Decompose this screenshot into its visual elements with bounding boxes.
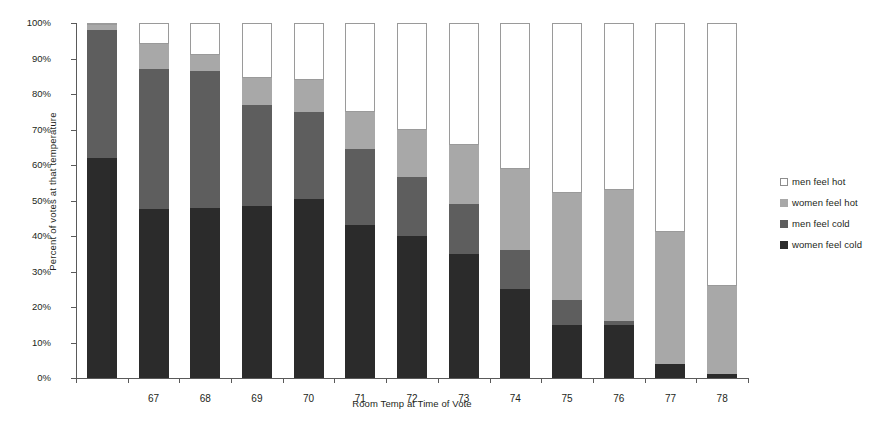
bar-segment bbox=[449, 204, 479, 254]
bar-segment bbox=[397, 236, 427, 378]
bar-segment bbox=[345, 23, 375, 112]
x-axis-tick bbox=[696, 378, 697, 383]
bar-segment bbox=[552, 325, 582, 378]
bar-stack[interactable] bbox=[242, 23, 272, 378]
bar-segment bbox=[500, 23, 530, 169]
bar-stack[interactable] bbox=[139, 23, 169, 378]
bar-segment bbox=[500, 250, 530, 289]
legend-item-label: women feel cold bbox=[792, 239, 862, 250]
x-axis-tick bbox=[593, 378, 594, 383]
bar-stack[interactable] bbox=[294, 23, 324, 378]
y-axis-tick bbox=[71, 272, 76, 273]
bar-segment bbox=[655, 364, 685, 378]
x-axis-title: Room Temp at Time of Vote bbox=[76, 398, 748, 409]
x-axis-tick bbox=[231, 378, 232, 383]
bar-segment bbox=[139, 44, 169, 69]
y-axis-tick bbox=[71, 236, 76, 237]
y-axis-tick-label: 90% bbox=[5, 53, 51, 64]
bar-segment bbox=[139, 209, 169, 378]
y-axis-tick-label: 100% bbox=[5, 17, 51, 28]
bar-segment bbox=[139, 23, 169, 44]
bar-segment bbox=[500, 169, 530, 251]
y-axis-tick-label: 20% bbox=[5, 301, 51, 312]
bar-segment bbox=[552, 23, 582, 193]
bar-segment bbox=[294, 112, 324, 199]
x-axis-tick bbox=[490, 378, 491, 383]
bar-segment bbox=[707, 374, 737, 378]
y-axis-tick-label: 40% bbox=[5, 230, 51, 241]
bar-stack[interactable] bbox=[87, 23, 117, 378]
x-axis-tick bbox=[438, 378, 439, 383]
legend-item-label: men feel cold bbox=[792, 218, 850, 229]
y-axis-tick-label: 70% bbox=[5, 124, 51, 135]
y-axis-tick bbox=[71, 59, 76, 60]
bar-segment bbox=[397, 177, 427, 236]
bar-segment bbox=[294, 80, 324, 112]
bar-segment bbox=[655, 23, 685, 232]
bar-segment bbox=[500, 289, 530, 378]
bar-segment bbox=[552, 300, 582, 325]
y-axis-tick bbox=[71, 165, 76, 166]
bar-segment bbox=[242, 105, 272, 206]
legend-swatch-icon bbox=[780, 178, 788, 186]
bar-stack[interactable] bbox=[190, 23, 220, 378]
bar-segment bbox=[242, 78, 272, 105]
bar-segment bbox=[449, 23, 479, 145]
legend-item[interactable]: men feel hot bbox=[780, 171, 888, 192]
bar-segment bbox=[190, 71, 220, 208]
legend-item-label: men feel hot bbox=[792, 176, 845, 187]
bar-segment bbox=[707, 286, 737, 375]
bar-stack[interactable] bbox=[345, 23, 375, 378]
y-axis-tick bbox=[71, 23, 76, 24]
bar-stack[interactable] bbox=[500, 23, 530, 378]
bar-segment bbox=[449, 145, 479, 204]
bar-stack[interactable] bbox=[449, 23, 479, 378]
x-axis-tick bbox=[283, 378, 284, 383]
bar-segment bbox=[87, 158, 117, 378]
bar-segment bbox=[604, 190, 634, 321]
bar-segment bbox=[87, 23, 117, 25]
bar-segment bbox=[604, 321, 634, 325]
x-axis-tick bbox=[128, 378, 129, 383]
x-axis-line bbox=[76, 378, 749, 379]
bar-segment bbox=[345, 225, 375, 378]
y-axis-tick-label: 50% bbox=[5, 195, 51, 206]
y-axis-tick-label: 0% bbox=[5, 372, 51, 383]
x-axis-tick bbox=[748, 378, 749, 383]
legend-item[interactable]: men feel cold bbox=[780, 213, 888, 234]
plot-area: 0%10%20%30%40%50%60%70%80%90%100% 676869… bbox=[76, 23, 748, 378]
bar-segment bbox=[242, 23, 272, 78]
chart-legend: men feel hotwomen feel hotmen feel coldw… bbox=[780, 171, 888, 255]
y-axis-tick bbox=[71, 130, 76, 131]
bar-segment bbox=[139, 69, 169, 209]
bar-segment bbox=[345, 112, 375, 149]
bar-stack[interactable] bbox=[397, 23, 427, 378]
legend-swatch-icon bbox=[780, 220, 788, 228]
bar-stack[interactable] bbox=[655, 23, 685, 378]
x-axis-tick bbox=[179, 378, 180, 383]
y-axis-tick bbox=[71, 343, 76, 344]
bar-segment bbox=[87, 30, 117, 158]
legend-item[interactable]: women feel hot bbox=[780, 192, 888, 213]
legend-item[interactable]: women feel cold bbox=[780, 234, 888, 255]
x-axis-tick bbox=[645, 378, 646, 383]
bar-stack[interactable] bbox=[552, 23, 582, 378]
stacked-bar-chart: Percent of votes at that temperature 0%1… bbox=[0, 0, 889, 431]
bar-segment bbox=[397, 23, 427, 130]
bar-segment bbox=[449, 254, 479, 378]
legend-swatch-icon bbox=[780, 199, 788, 207]
bar-segment bbox=[397, 130, 427, 178]
bar-stack[interactable] bbox=[707, 23, 737, 378]
bar-segment bbox=[190, 208, 220, 378]
x-axis-tick bbox=[76, 378, 77, 383]
bar-segment bbox=[242, 206, 272, 378]
bar-segment bbox=[707, 23, 737, 286]
y-axis-tick bbox=[71, 94, 76, 95]
y-axis-tick-label: 30% bbox=[5, 266, 51, 277]
bar-stack[interactable] bbox=[604, 23, 634, 378]
legend-item-label: women feel hot bbox=[792, 197, 858, 208]
bar-segment bbox=[190, 55, 220, 71]
x-axis-tick bbox=[386, 378, 387, 383]
bar-segment bbox=[552, 193, 582, 300]
bar-segment bbox=[655, 232, 685, 363]
